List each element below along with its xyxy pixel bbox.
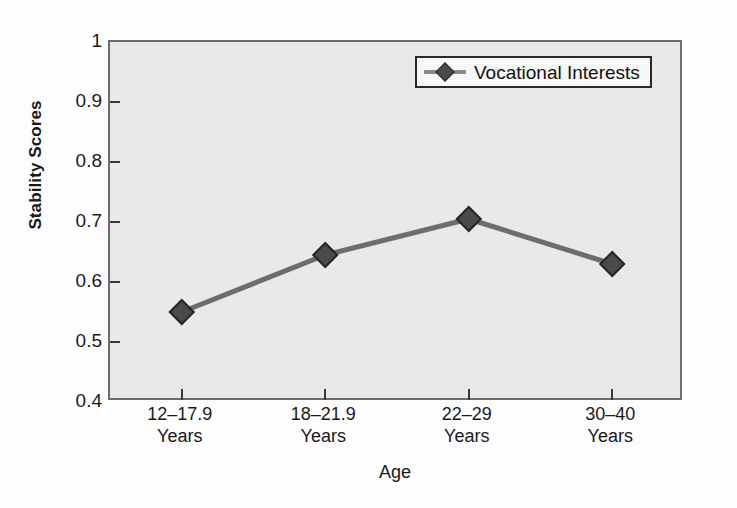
data-point-marker <box>313 243 337 267</box>
y-tick-mark <box>110 281 120 283</box>
y-tick-mark <box>110 161 120 163</box>
y-tick-mark <box>110 341 120 343</box>
x-tick-mark <box>324 389 326 400</box>
y-tick-mark <box>110 101 120 103</box>
x-tick-label: 12–17.9Years <box>105 404 255 448</box>
x-tick-label-range: 18–21.9 <box>291 404 356 424</box>
series-canvas <box>110 42 684 402</box>
x-tick-label-unit: Years <box>105 426 255 448</box>
data-point-marker <box>457 207 481 231</box>
x-tick-label-unit: Years <box>392 426 542 448</box>
x-tick-mark <box>611 389 613 400</box>
x-axis-title: Age <box>108 462 682 483</box>
chart-figure: Stability Scores 0.40.50.60.70.80.91 Voc… <box>0 0 737 508</box>
x-tick-mark <box>468 389 470 400</box>
y-tick-label: 0.4 <box>36 391 102 410</box>
legend-label-vocational-interests: Vocational Interests <box>474 63 640 82</box>
chart-legend: Vocational Interests <box>415 56 652 88</box>
x-tick-label: 22–29Years <box>392 404 542 448</box>
y-tick-mark <box>110 221 120 223</box>
series-line-vocational-interests <box>182 219 613 312</box>
x-tick-label-unit: Years <box>535 426 685 448</box>
x-tick-label: 18–21.9Years <box>248 404 398 448</box>
x-axis-tick-labels: 12–17.9Years18–21.9Years22–29Years30–40Y… <box>108 404 682 464</box>
series-markers-vocational-interests <box>170 207 625 324</box>
y-axis-tick-labels: 0.40.50.60.70.80.91 <box>32 0 102 508</box>
data-point-marker <box>170 300 194 324</box>
plot-area: Vocational Interests <box>108 40 682 400</box>
y-tick-label: 0.6 <box>36 271 102 290</box>
y-tick-label: 0.7 <box>36 211 102 230</box>
x-tick-label: 30–40Years <box>535 404 685 448</box>
data-point-marker <box>600 252 624 276</box>
x-tick-label-unit: Years <box>248 426 398 448</box>
x-tick-mark <box>181 389 183 400</box>
y-tick-label: 0.9 <box>36 91 102 110</box>
y-tick-label: 0.8 <box>36 151 102 170</box>
y-tick-label: 1 <box>36 31 102 50</box>
x-tick-label-range: 30–40 <box>585 404 635 424</box>
x-tick-label-range: 22–29 <box>442 404 492 424</box>
x-tick-label-range: 12–17.9 <box>147 404 212 424</box>
legend-diamond-marker-icon <box>423 61 467 83</box>
y-tick-label: 0.5 <box>36 331 102 350</box>
